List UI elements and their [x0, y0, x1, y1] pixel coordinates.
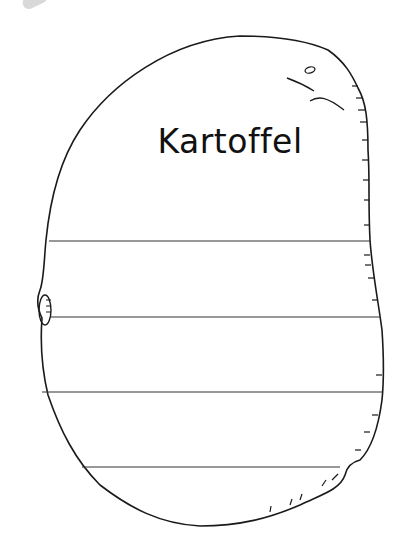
worksheet-title: Kartoffel [140, 122, 320, 161]
potato-worksheet: Kartoffel [0, 0, 419, 551]
potato-outline-icon [0, 0, 419, 551]
writing-lines [42, 241, 382, 467]
